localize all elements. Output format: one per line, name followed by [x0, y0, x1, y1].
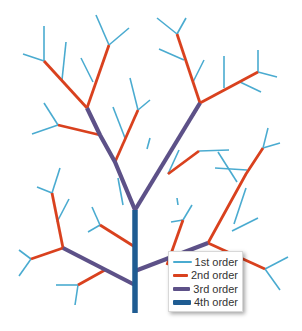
branch-order1	[265, 257, 288, 269]
legend-swatch-4th-order	[173, 300, 191, 306]
branch-order1	[263, 128, 268, 148]
branch-order1	[157, 18, 177, 34]
branch-order1	[75, 285, 78, 305]
branch-order1	[199, 150, 229, 151]
branch-order2	[31, 248, 63, 259]
branch-order1	[258, 72, 277, 77]
branch-order1	[44, 103, 58, 125]
legend-label: 2nd order	[191, 269, 238, 281]
branch-order2	[200, 72, 258, 103]
legend: 1st order 2nd order 3rd order 4th order	[168, 251, 243, 312]
legend-item-3rd-order: 3rd order	[173, 282, 238, 296]
legend-swatch-2nd-order	[173, 274, 188, 277]
branch-order2	[78, 270, 105, 285]
branch-order1	[37, 187, 52, 193]
stream-order-tree-diagram	[0, 0, 302, 331]
branch-order1	[265, 269, 280, 290]
branch-order1	[113, 107, 125, 138]
branch-order1	[57, 199, 69, 222]
branch-order1	[23, 54, 44, 61]
branch-order1	[177, 18, 186, 34]
branch-order1	[96, 15, 109, 45]
branch-order1	[19, 250, 31, 259]
legend-label: 4th order	[194, 296, 238, 308]
legend-swatch-1st-order	[173, 261, 192, 263]
branch-order1	[218, 152, 237, 182]
branch-order1	[177, 198, 178, 205]
branch-order1	[62, 42, 66, 80]
branch-order1	[109, 28, 129, 45]
branch-order2	[115, 110, 138, 162]
legend-item-1st-order: 1st order	[173, 255, 238, 269]
branch-order1	[81, 58, 93, 82]
branch-order2	[100, 225, 135, 247]
branch-order1	[147, 138, 150, 149]
branch-order1	[92, 207, 100, 225]
branch-order1	[88, 225, 100, 232]
branch-order2	[44, 61, 87, 108]
branch-order1	[19, 259, 31, 276]
branch-order2	[52, 193, 63, 248]
legend-swatch-3rd-order	[173, 287, 190, 291]
branch-order1	[159, 49, 184, 60]
legend-item-4th-order: 4th order	[173, 296, 238, 310]
branch-order3	[63, 248, 135, 285]
branch-order1	[193, 60, 204, 82]
branch-order2	[177, 34, 200, 103]
legend-label: 1st order	[195, 256, 238, 268]
legend-label: 3rd order	[193, 283, 238, 295]
branch-order1	[52, 168, 60, 193]
legend-item-2nd-order: 2nd order	[173, 269, 238, 283]
branch-order1	[240, 82, 261, 92]
branch-order1	[183, 205, 192, 220]
branch-order1	[263, 143, 280, 148]
branch-order1	[32, 125, 58, 134]
branch-order1	[215, 168, 247, 170]
branch-order3	[87, 108, 135, 210]
branch-order1	[138, 100, 150, 110]
branch-order1	[130, 78, 138, 110]
